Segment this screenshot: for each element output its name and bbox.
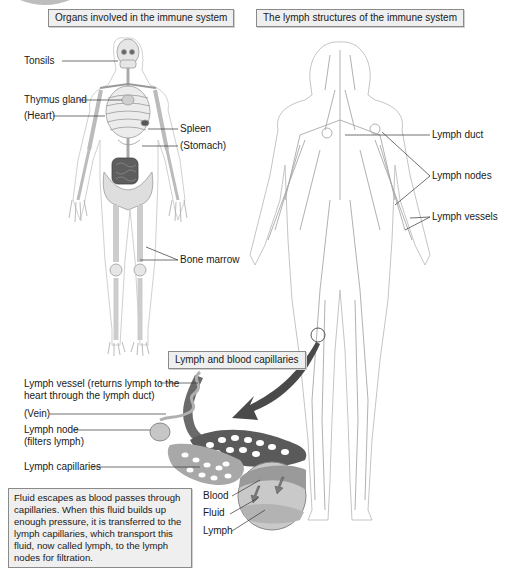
label-lymph-vessel: Lymph vessel (returns lymph to the heart… <box>24 378 179 402</box>
label-lymph-duct: Lymph duct <box>432 129 483 141</box>
label-bone-marrow: Bone marrow <box>180 254 239 266</box>
label-stomach: (Stomach) <box>180 140 226 152</box>
capillaries-caption: Fluid escapes as blood passes through ca… <box>8 488 192 568</box>
label-heart: (Heart) <box>24 110 55 122</box>
lymph-leader-lines <box>345 132 430 230</box>
label-lymph-vessels: Lymph vessels <box>432 211 498 223</box>
label-lymph-node-line1: Lymph node <box>24 424 84 436</box>
label-lymph-node: Lymph node (filters lymph) <box>24 424 84 448</box>
label-lymph-vessel-line2: heart through the lymph duct) <box>24 390 179 402</box>
label-lymph-node-line2: (filters lymph) <box>24 436 84 448</box>
label-blood: Blood <box>203 490 229 502</box>
lymph-panel-title: The lymph structures of the immune syste… <box>256 9 464 27</box>
label-vein: (Vein) <box>24 408 50 420</box>
capillaries-panel-title: Lymph and blood capillaries <box>168 351 306 369</box>
label-tonsils: Tonsils <box>24 55 55 67</box>
label-thymus-gland: Thymus gland <box>24 94 87 106</box>
label-lymph-nodes: Lymph nodes <box>432 170 492 182</box>
label-lymph-vessel-line1: Lymph vessel (returns lymph to the <box>24 378 179 390</box>
corner-arc-decoration <box>20 0 70 5</box>
label-fluid: Fluid <box>203 507 225 519</box>
label-lymph-capillaries: Lymph capillaries <box>24 461 101 473</box>
skeleton-figure <box>69 38 187 356</box>
label-lymph: Lymph <box>203 525 233 537</box>
organs-panel-title: Organs involved in the immune system <box>48 9 234 27</box>
label-spleen: Spleen <box>180 123 211 135</box>
